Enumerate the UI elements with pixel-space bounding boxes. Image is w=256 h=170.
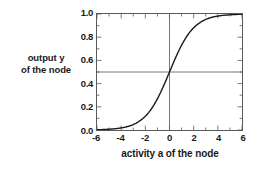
x-tick-label-4: 2 (182, 133, 206, 143)
y-tick-label-3: 0.6 (63, 55, 93, 65)
plot-area (96, 13, 243, 131)
plot-inner (97, 14, 242, 130)
chart-canvas (97, 14, 242, 130)
x-tick-label-0: -6 (84, 133, 108, 143)
x-tick-label-5: 4 (207, 133, 231, 143)
x-tick-label-1: -4 (109, 133, 133, 143)
y-tick-label-4: 0.8 (63, 32, 93, 42)
sigmoid-activation-chart: output y of the node 0.00.20.40.60.81.0 … (0, 0, 256, 170)
x-axis-title: activity a of the node (96, 148, 244, 159)
x-axis-tick-labels: -6-4-20246 (96, 133, 243, 145)
x-tick-label-2: -2 (133, 133, 157, 143)
y-tick-label-2: 0.4 (63, 79, 93, 89)
y-tick-label-5: 1.0 (63, 8, 93, 18)
x-tick-label-3: 0 (158, 133, 182, 143)
y-axis-tick-labels: 0.00.20.40.60.81.0 (60, 13, 93, 131)
y-tick-label-1: 0.2 (63, 102, 93, 112)
x-tick-label-6: 6 (231, 133, 255, 143)
